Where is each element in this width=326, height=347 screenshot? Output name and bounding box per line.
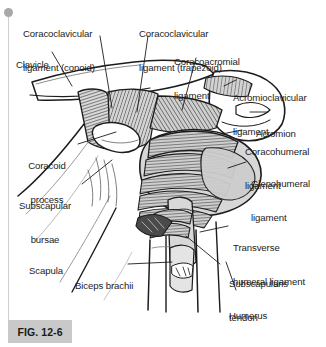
label-line-1: Biceps brachii <box>75 280 133 291</box>
label-scapula: Scapula <box>29 243 63 299</box>
label-line-2: ligament <box>174 90 240 101</box>
label-clavicle: Clavicle <box>16 37 49 93</box>
label-line-1: Acromioclavicular <box>233 92 306 103</box>
label-biceps-brachii: Biceps brachii <box>75 258 133 314</box>
label-line-1: Coracoid <box>14 160 80 171</box>
label-line-1: Coracoacromial <box>174 56 240 67</box>
label-line-1: Transverse <box>233 242 305 253</box>
label-line-1: Humerus <box>229 310 267 321</box>
label-humerus: Humerus <box>229 288 267 344</box>
label-line-1: Scapula <box>29 265 63 276</box>
figure-page: Coracoclavicular ligament (conoid) Corac… <box>0 0 326 347</box>
figure-caption-text: FIG. 12-6 <box>17 326 62 338</box>
label-line-1: Glenohumeral <box>251 178 310 189</box>
label-line-1: Subscapular <box>8 200 82 211</box>
label-coracoacromial: Coracoacromial ligament <box>174 34 240 124</box>
label-line-1: Clavicle <box>16 59 49 70</box>
figure-caption-box: FIG. 12-6 <box>8 320 72 343</box>
